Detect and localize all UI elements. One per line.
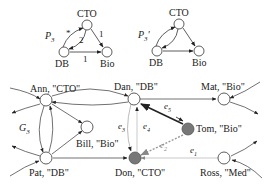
edge-label-e4-sub: 4 bbox=[147, 127, 150, 133]
p3p-label-db: DB bbox=[149, 58, 163, 68]
p3-label-cto: CTO bbox=[77, 9, 97, 19]
pattern-p3-prime-label: P3' bbox=[138, 30, 150, 43]
p3p-node-bio bbox=[194, 46, 204, 56]
edge-e5-tom-dan bbox=[141, 104, 183, 124]
edge-ann-pat bbox=[39, 106, 44, 152]
edge-label-e2: e2 bbox=[160, 141, 167, 152]
node-label-dan: Dan, "DB" bbox=[114, 82, 158, 92]
edge-out-ann bbox=[12, 104, 40, 113]
node-bill bbox=[81, 121, 93, 133]
node-pat bbox=[40, 152, 52, 164]
edge-label-e2-sub: 2 bbox=[164, 146, 167, 152]
edge-out-pat bbox=[12, 146, 40, 156]
p3p-node-cto bbox=[174, 19, 184, 29]
p3-node-db bbox=[59, 47, 69, 57]
p3-label-bio: Bio bbox=[100, 59, 114, 69]
p3-edge-label-2: 2 bbox=[79, 36, 84, 45]
node-label-tom: Tom, "Bio" bbox=[196, 124, 242, 134]
node-mat bbox=[218, 93, 230, 105]
p3p-label-bio: Bio bbox=[192, 58, 206, 68]
node-don bbox=[129, 152, 141, 164]
node-label-bill: Bill, "Bio" bbox=[76, 139, 119, 149]
p3-edge-label-1a: 1 bbox=[99, 30, 104, 39]
node-label-pat: Pat, "DB" bbox=[29, 168, 69, 178]
p3p-edge-db-cto bbox=[156, 27, 175, 46]
edge-label-e1: e1 bbox=[190, 146, 197, 157]
edge-label-e3-sub: 3 bbox=[122, 127, 125, 133]
edge-label-e3: e3 bbox=[118, 122, 125, 133]
p3-label-db: DB bbox=[55, 59, 69, 69]
p3p-edge-cto-bio bbox=[183, 28, 195, 46]
pattern-p3-label: P3 bbox=[45, 31, 55, 44]
pattern-p3-prime bbox=[152, 19, 204, 56]
p3-node-bio bbox=[102, 47, 112, 57]
edge-label-e5-sub: 5 bbox=[168, 107, 171, 113]
edge-label-e4: e4 bbox=[143, 122, 150, 133]
pattern-p3 bbox=[59, 20, 112, 57]
edge-out-mat bbox=[230, 102, 258, 114]
edge-dan-ann bbox=[52, 102, 128, 105]
edge-ann-bill bbox=[52, 104, 82, 123]
edge-out-ross bbox=[231, 141, 257, 156]
p3-edge-label-1b: 1 bbox=[83, 55, 88, 64]
edge-label-e1-sub: 1 bbox=[194, 151, 197, 157]
graph-g3-label: G3 bbox=[19, 123, 30, 136]
p3-edge-label-star: * bbox=[66, 29, 71, 38]
edge-e3-dan-don bbox=[128, 104, 132, 151]
edge-pat-ann bbox=[49, 106, 53, 152]
p3p-node-db bbox=[152, 46, 162, 56]
node-ann bbox=[40, 94, 52, 106]
edge-label-e5: e5 bbox=[164, 102, 171, 113]
node-label-ann: Ann, "CTO" bbox=[30, 84, 80, 94]
p3p-edge-cto-db bbox=[162, 29, 178, 48]
pattern-p3-subscript: 3 bbox=[51, 36, 55, 44]
node-label-ross: Ross, "Med" bbox=[200, 168, 251, 178]
pattern-p3-prime-mark: ' bbox=[148, 29, 150, 40]
node-tom bbox=[182, 123, 194, 135]
node-dan bbox=[128, 93, 140, 105]
node-ross bbox=[218, 152, 230, 164]
p3-node-cto bbox=[82, 20, 92, 30]
graph-g3-subscript: 3 bbox=[26, 128, 30, 136]
p3p-label-cto: CTO bbox=[169, 8, 189, 18]
node-label-don: Don, "CTO" bbox=[115, 168, 165, 178]
node-label-mat: Mat, "Bio" bbox=[201, 82, 245, 92]
